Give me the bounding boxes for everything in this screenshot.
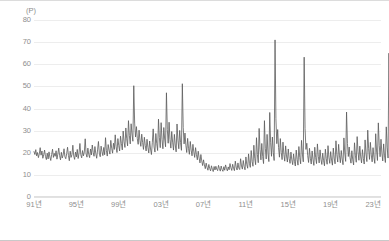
x-tick-label-1991: 91년 xyxy=(26,200,41,210)
x-axis-baseline xyxy=(34,196,381,197)
y-tick-label-30: 30 xyxy=(1,127,31,135)
x-tick-label-2003: 03년 xyxy=(153,200,168,210)
y-axis: 80706050403020100 xyxy=(0,20,31,197)
y-tick-label-10: 10 xyxy=(1,171,31,179)
series-line-index xyxy=(34,20,381,197)
x-tick-label-2007: 07년 xyxy=(196,200,211,210)
gridline-0 xyxy=(34,197,381,198)
y-tick-label-50: 50 xyxy=(1,82,31,90)
y-tick-label-80: 80 xyxy=(1,16,31,24)
y-tick-label-20: 20 xyxy=(1,149,31,157)
y-axis-unit-label: (P) xyxy=(26,6,36,15)
y-tick-label-40: 40 xyxy=(1,105,31,113)
x-tick-label-1999: 99년 xyxy=(111,200,126,210)
x-tick-label-2023: 23년 xyxy=(365,200,380,210)
y-tick-label-70: 70 xyxy=(1,38,31,46)
line-chart-figure: (P) 80706050403020100 91년95년99년03년07년11년… xyxy=(0,0,389,241)
plot-area xyxy=(34,20,381,197)
x-tick-label-2011: 11년 xyxy=(239,200,254,210)
x-tick-label-2019: 19년 xyxy=(323,200,338,210)
x-axis: 91년95년99년03년07년11년15년19년23년 xyxy=(34,200,381,218)
x-tick-label-1995: 95년 xyxy=(69,200,84,210)
y-tick-label-60: 60 xyxy=(1,60,31,68)
x-tick-label-2015: 15년 xyxy=(281,200,296,210)
